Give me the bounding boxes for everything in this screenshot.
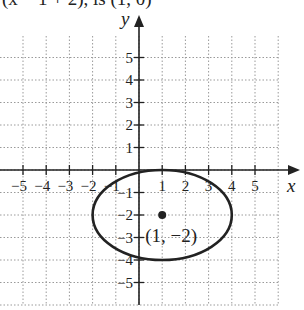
x-tick-label: −2: [81, 178, 97, 194]
y-tick-label: −3: [117, 230, 133, 246]
y-axis-label: y: [119, 8, 130, 29]
y-tick-label: 5: [126, 50, 134, 66]
x-axis-arrow-icon: [288, 165, 300, 175]
y-tick-label: −2: [117, 207, 133, 223]
x-tick-label: −5: [11, 178, 27, 194]
y-tick-label: −1: [117, 185, 133, 201]
x-tick-label: −3: [57, 178, 73, 194]
center-point: [158, 211, 166, 219]
y-tick-label: 1: [126, 140, 134, 156]
x-tick-label: 1: [158, 178, 166, 194]
y-tick-label: 3: [126, 95, 134, 111]
graph: −5−4−3−2−11234554321−1−2−3−4−5 x y (1, −…: [0, 0, 304, 310]
point-label: (1, −2): [145, 225, 197, 247]
y-axis-arrow-icon: [134, 15, 144, 27]
x-tick-label: 2: [182, 178, 190, 194]
x-tick-label: 5: [251, 178, 259, 194]
y-tick-label: 2: [126, 117, 134, 133]
x-axis-label: x: [286, 175, 296, 196]
y-tick-label: −5: [117, 275, 133, 291]
x-tick-label: −4: [34, 178, 50, 194]
x-tick-label: 4: [228, 178, 236, 194]
y-tick-label: 4: [126, 72, 134, 88]
